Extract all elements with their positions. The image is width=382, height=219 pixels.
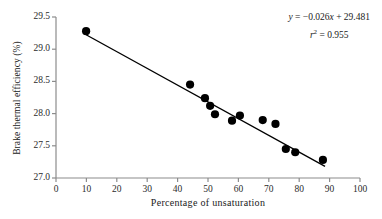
scatter-point bbox=[211, 110, 219, 118]
scatter-point bbox=[186, 81, 194, 89]
scatter-point bbox=[82, 27, 90, 35]
scatter-points bbox=[82, 27, 327, 164]
chart-figure: 27.027.528.028.529.029.5 010203040506070… bbox=[0, 0, 382, 219]
scatter-point bbox=[206, 102, 214, 110]
x-axis-tick-marks bbox=[56, 178, 360, 182]
scatter-point bbox=[282, 145, 290, 153]
r-squared-line: r2 = 0.955 bbox=[288, 25, 370, 43]
equation-equals: = bbox=[293, 12, 303, 22]
regression-equation-line: y = −0.026x + 29.481 bbox=[288, 10, 370, 25]
r-squared-value: = 0.955 bbox=[317, 30, 348, 40]
regression-annotation: y = −0.026x + 29.481 r2 = 0.955 bbox=[288, 10, 370, 43]
x-axis-title: Percentage of unsaturation bbox=[56, 197, 360, 208]
scatter-point bbox=[319, 156, 327, 164]
scatter-point bbox=[236, 111, 244, 119]
scatter-point bbox=[228, 117, 236, 125]
x-tick-label: 100 bbox=[340, 184, 380, 194]
scatter-point bbox=[271, 120, 279, 128]
y-axis-title: Brake thermal efficiency (%) bbox=[12, 18, 22, 178]
scatter-point bbox=[291, 148, 299, 156]
scatter-point bbox=[259, 116, 267, 124]
equation-rhs: −0.026x + 29.481 bbox=[303, 12, 370, 22]
scatter-point bbox=[201, 94, 209, 102]
